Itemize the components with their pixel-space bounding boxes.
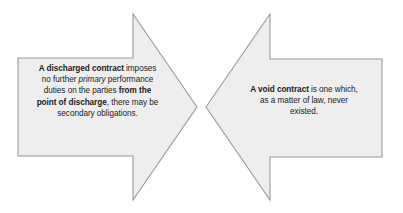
diagram-canvas: A discharged contract imposes no further… (0, 0, 403, 213)
arrow-shapes-svg (0, 0, 403, 213)
discharged-contract-arrow-shape[interactable] (18, 14, 197, 200)
void-contract-arrow-shape[interactable] (206, 14, 382, 200)
